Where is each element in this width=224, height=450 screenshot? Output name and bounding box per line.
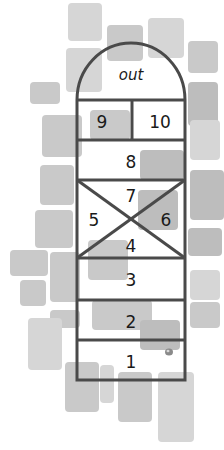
label-1: 1 — [126, 352, 137, 372]
label-6: 6 — [161, 210, 172, 230]
label-4: 4 — [126, 236, 137, 256]
label-2: 2 — [126, 312, 137, 332]
label-3: 3 — [126, 270, 137, 290]
marker-stone-icon — [165, 349, 173, 356]
paving-stones-background — [10, 3, 224, 442]
label-7: 7 — [126, 186, 137, 206]
label-out: out — [119, 66, 145, 84]
label-8: 8 — [126, 152, 137, 172]
hopscotch-diagram: out 9 10 8 7 5 6 4 3 2 1 — [0, 0, 224, 450]
label-5: 5 — [89, 210, 100, 230]
label-9: 9 — [97, 112, 108, 132]
label-10: 10 — [149, 112, 171, 132]
